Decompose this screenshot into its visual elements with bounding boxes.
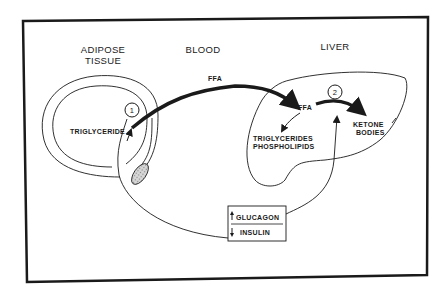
node-phospholipids: PHOSPHOLIPIDS: [253, 143, 314, 150]
vessel-to-triglyceride-arrow: [127, 130, 131, 141]
esterification-arrow: [282, 113, 300, 131]
step-1-marker: 1: [125, 103, 139, 117]
capillary-shading: [128, 161, 152, 188]
hormone-box: GLUCAGON INSULIN: [228, 206, 286, 241]
step-2-label: 2: [333, 88, 337, 97]
node-ketone-1: KETONE: [353, 121, 384, 128]
region-label-adipose-2: TISSUE: [85, 55, 121, 66]
adipose-cell: [42, 76, 158, 177]
ffa-release-arrow: [132, 86, 296, 128]
node-ffa-liver: FFA: [298, 104, 312, 111]
lipolysis-ketogenesis-diagram: ADIPOSE TISSUE BLOOD LIVER 1 2 TRIGLYCER…: [0, 0, 448, 297]
ketogenesis-arrow: [316, 101, 362, 112]
node-triglycerides: TRIGLYCERIDES: [253, 135, 313, 142]
node-triglyceride: TRIGLYCERIDE: [70, 128, 125, 135]
node-ffa-blood: FFA: [208, 75, 222, 82]
region-label-blood: BLOOD: [186, 44, 221, 55]
step-2-marker: 2: [328, 85, 342, 99]
regulation-line-liver: [286, 117, 337, 214]
hormone-glucagon: GLUCAGON: [236, 214, 279, 221]
region-label-adipose-1: ADIPOSE: [81, 44, 125, 55]
hormone-insulin: INSULIN: [240, 229, 270, 236]
step-1-label: 1: [130, 106, 134, 115]
region-label-liver: LIVER: [321, 41, 350, 52]
node-ketone-2: BODIES: [356, 129, 385, 136]
outer-frame: [23, 17, 428, 282]
